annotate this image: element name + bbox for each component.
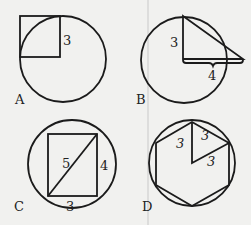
panel-a: 3 A <box>14 16 106 107</box>
diagonal-c <box>48 134 97 196</box>
panel-c: 5 4 3 C <box>14 120 116 214</box>
measure-d-3: 3 <box>207 154 215 169</box>
triangle-b <box>183 16 243 59</box>
measure-c-width: 3 <box>66 199 74 214</box>
measure-a-side: 3 <box>63 33 71 48</box>
brace-b <box>183 60 243 66</box>
panel-label-d: D <box>142 199 152 214</box>
geometry-figure: 3 A 3 4 B 5 4 3 C 3 3 3 D <box>0 0 251 225</box>
measure-c-height: 4 <box>100 158 108 173</box>
panel-label-c: C <box>14 199 24 214</box>
measure-b-horizontal: 4 <box>208 68 216 83</box>
panel-label-a: A <box>14 92 25 107</box>
measure-d-2: 3 <box>201 128 209 143</box>
measure-b-vertical: 3 <box>170 35 178 50</box>
measure-d-1: 3 <box>176 136 184 151</box>
circle-b <box>141 17 227 103</box>
panel-d: 3 3 3 D <box>142 120 235 214</box>
circle-a <box>20 16 106 102</box>
panel-b: 3 4 B <box>136 16 243 107</box>
panel-label-b: B <box>136 92 146 107</box>
measure-c-diagonal: 5 <box>62 156 70 171</box>
